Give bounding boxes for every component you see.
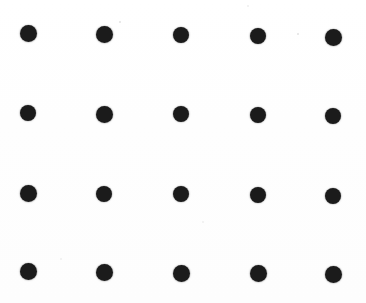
grid-dot [250, 28, 266, 44]
grid-dot [325, 266, 342, 283]
scan-speck [60, 258, 62, 260]
grid-dot [325, 188, 341, 204]
grid-dot [173, 106, 189, 122]
grid-dot [173, 27, 189, 43]
grid-dot [96, 264, 113, 281]
grid-dot [325, 29, 342, 46]
grid-dot [20, 25, 37, 42]
scan-speck [247, 5, 249, 7]
paper-background [0, 0, 366, 303]
grid-dot [20, 263, 37, 280]
grid-dot [250, 187, 266, 203]
grid-dot [20, 185, 37, 202]
grid-dot [96, 26, 113, 43]
dot-grid-image [0, 0, 366, 303]
grid-dot [96, 186, 112, 202]
grid-dot [96, 106, 113, 123]
grid-dot [173, 186, 189, 202]
grid-dot [325, 108, 341, 124]
grid-dot [20, 105, 36, 121]
grid-dot [173, 265, 190, 282]
grid-dot [250, 107, 266, 123]
grid-dot [250, 265, 267, 282]
